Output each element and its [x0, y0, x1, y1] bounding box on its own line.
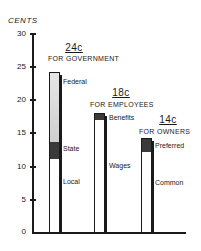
- own-caption: FOR OWNERS: [139, 128, 190, 135]
- gov-state-label: State: [63, 145, 79, 152]
- gov-local-label: Local: [63, 178, 80, 185]
- tick-15: [30, 132, 36, 134]
- gov-federal-label: Federal: [63, 78, 87, 85]
- emp-caption: FOR EMPLOYEES: [90, 101, 154, 108]
- tick-label-0: 0: [12, 227, 26, 236]
- emp-bar: [94, 113, 105, 233]
- tick-label-10: 10: [12, 162, 26, 171]
- tick-label-20: 20: [12, 95, 26, 104]
- emp-segment-benefits: [95, 114, 104, 120]
- gov-segment-federal: [50, 73, 59, 142]
- gov-bar: [49, 72, 60, 233]
- own-common-label: Common: [155, 179, 183, 186]
- emp-benefits-label: Benefits: [109, 114, 134, 121]
- tick-label-25: 25: [12, 62, 26, 71]
- tick-20: [30, 99, 36, 101]
- gov-segment-state: [50, 142, 59, 159]
- tick-5: [30, 199, 36, 201]
- tick-10: [30, 166, 36, 168]
- emp-segment-wages: [95, 120, 104, 232]
- own-segment-preferred: [142, 139, 151, 152]
- gov-segment-local: [50, 159, 59, 232]
- tick-30: [30, 33, 36, 35]
- own-total-label: 14c: [148, 114, 188, 125]
- y-axis-label: CENTS: [8, 16, 38, 25]
- tick-label-15: 15: [12, 128, 26, 137]
- tick-label-30: 30: [12, 29, 26, 38]
- own-preferred-label: Preferred: [155, 142, 184, 149]
- emp-total-label: 18c: [96, 87, 146, 98]
- own-bar: [141, 138, 152, 233]
- tick-label-5: 5: [12, 195, 26, 204]
- gov-caption: FOR GOVERNMENT: [48, 55, 119, 62]
- emp-wages-label: Wages: [109, 162, 131, 169]
- own-segment-common: [142, 152, 151, 232]
- gov-total-label: 24c: [44, 42, 104, 53]
- tick-25: [30, 66, 36, 68]
